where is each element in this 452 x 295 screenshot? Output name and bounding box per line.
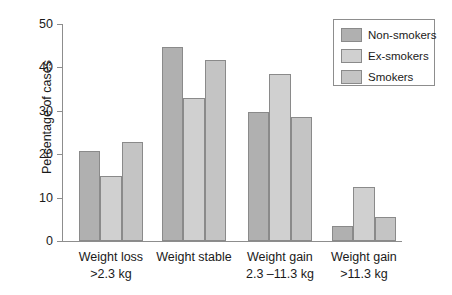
legend-label: Non-smokers <box>368 29 436 41</box>
bar <box>269 74 290 241</box>
bar <box>205 60 226 241</box>
bar-chart: Percentage of cases 01020304050 Weight l… <box>0 0 452 295</box>
bar <box>332 226 353 241</box>
y-axis-tick: 20 <box>0 154 62 155</box>
y-axis-tick-label: 30 <box>39 103 53 119</box>
y-axis-tick-label: 0 <box>46 233 53 249</box>
x-axis-category-label-line1: Weight gain <box>331 250 397 264</box>
legend-item: Ex-smokers <box>341 47 434 65</box>
y-axis-tick: 10 <box>0 198 62 199</box>
bar <box>183 98 204 241</box>
legend-rows: Non-smokersEx-smokersSmokers <box>341 26 434 86</box>
bar <box>291 117 312 241</box>
y-axis-tick: 0 <box>0 241 62 242</box>
legend-swatch <box>341 49 362 63</box>
bar <box>248 112 269 241</box>
x-axis-line <box>62 241 402 242</box>
y-axis-tick-label: 20 <box>39 146 53 162</box>
bar <box>122 142 143 241</box>
y-axis-tick-mark <box>57 241 62 242</box>
legend-item: Non-smokers <box>341 26 434 44</box>
legend-swatch <box>341 28 362 42</box>
x-axis-category-label-line2: >2.3 kg <box>51 266 171 283</box>
legend-item: Smokers <box>341 68 434 86</box>
bar <box>100 176 121 241</box>
bar <box>375 217 396 241</box>
y-axis-tick: 50 <box>0 24 62 25</box>
bar <box>353 187 374 241</box>
y-axis-tick-label: 10 <box>39 190 53 206</box>
y-axis-tick-label: 40 <box>39 59 53 75</box>
legend-swatch <box>341 70 362 84</box>
x-axis-category-label: Weight gain>11.3 kg <box>304 249 424 283</box>
bar <box>79 151 100 241</box>
y-axis-tick: 30 <box>0 111 62 112</box>
legend: Non-smokersEx-smokersSmokers <box>333 19 435 86</box>
x-axis-category-label-line2: >11.3 kg <box>304 266 424 283</box>
legend-label: Smokers <box>368 71 413 83</box>
legend-label: Ex-smokers <box>368 50 429 62</box>
y-axis-tick: 40 <box>0 67 62 68</box>
bar <box>162 47 183 241</box>
y-axis-tick-label: 50 <box>39 16 53 32</box>
